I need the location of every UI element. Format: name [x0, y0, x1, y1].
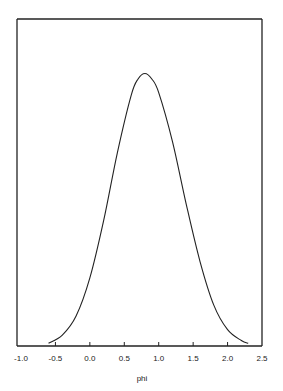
x-tick-label: 2.5 — [256, 354, 268, 363]
x-tick-label: 2.0 — [222, 354, 234, 363]
x-ticks: -1.0-0.50.00.51.01.52.02.5 — [14, 342, 268, 363]
x-tick-label: 1.0 — [153, 354, 165, 363]
x-tick-label: 0.5 — [119, 354, 131, 363]
density-curve — [49, 74, 249, 344]
plot-frame — [17, 19, 262, 346]
curve-layer — [49, 74, 249, 344]
chart: -1.0-0.50.00.51.01.52.02.5 phi — [0, 0, 283, 391]
x-tick-label: 0.0 — [84, 354, 96, 363]
x-axis-label: phi — [137, 374, 148, 383]
x-tick-label: -1.0 — [14, 354, 28, 363]
x-tick-label: -0.5 — [49, 354, 63, 363]
x-tick-label: 1.5 — [188, 354, 200, 363]
